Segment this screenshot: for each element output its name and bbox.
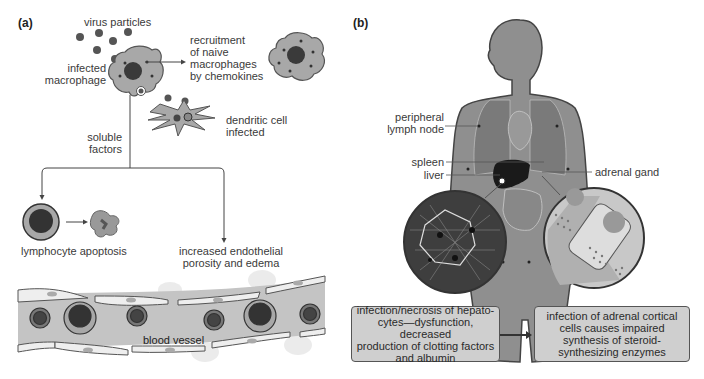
lymphocyte-apoptosis-label: lymphocyte apoptosis — [21, 245, 127, 257]
virus-particles-label: virus particles — [84, 16, 151, 28]
panel-b-label: (b) — [353, 16, 368, 30]
spleen-label: spleen — [400, 156, 444, 168]
dendritic-cell-label: dendritic cell infected — [226, 114, 287, 138]
adrenal-cell-detail-icon — [544, 188, 644, 288]
naive-macrophage-icon — [269, 33, 325, 81]
panel-a-label: (a) — [18, 16, 33, 30]
soluble-factors-label: soluble factors — [80, 131, 122, 155]
apoptotic-cell-icon — [90, 211, 119, 237]
peripheral-lymph-node-label: peripheral lymph node — [370, 111, 444, 135]
lymphocyte-icon — [23, 204, 59, 240]
dendritic-cell-icon — [148, 95, 215, 137]
adrenal-effect-box: infection of adrenal cortical cells caus… — [534, 306, 690, 362]
blood-vessel-label: blood vessel — [143, 334, 204, 346]
endothelial-porosity-label: increased endothelial porosity and edema — [178, 245, 284, 269]
liver-label: liver — [400, 169, 444, 181]
infected-macrophage-label: infected macrophage — [40, 62, 106, 86]
infected-macrophage-icon — [109, 46, 164, 96]
liver-lobule-detail-icon — [404, 191, 506, 293]
adrenal-gland-label: adrenal gand — [595, 166, 659, 178]
liver-effect-box: infection/necrosis of hepato- cytes—dysf… — [351, 306, 500, 362]
blood-vessel-icon — [18, 270, 325, 362]
recruitment-label: recruitment of naive macrophages by chem… — [190, 34, 263, 82]
